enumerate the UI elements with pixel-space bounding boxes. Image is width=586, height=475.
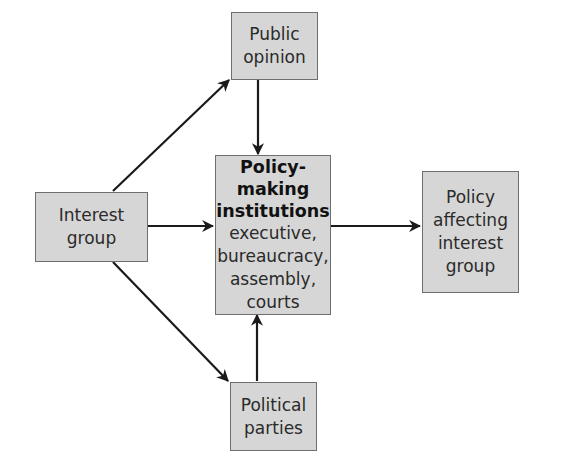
arrow-interest-to-public-opinion — [113, 80, 229, 191]
node-political-parties: Political parties — [230, 382, 317, 451]
node-label-line: bureaucracy, — [217, 245, 328, 268]
node-public-opinion: Public opinion — [231, 12, 318, 80]
arrow-interest-to-parties — [113, 262, 228, 381]
node-label-line: executive, — [229, 222, 317, 245]
node-policy-making-institutions: Policy-making institutions executive, bu… — [215, 155, 331, 315]
node-label-line: courts — [246, 291, 299, 314]
node-policy-affecting-interest-group: Policy affecting interest group — [422, 171, 519, 293]
node-interest-group: Interest group — [35, 192, 148, 262]
node-label-line: assembly, — [230, 268, 316, 291]
node-label-line: interest — [438, 232, 503, 255]
node-label-line: group — [67, 227, 116, 250]
node-label-line: Public — [249, 23, 299, 46]
node-label-line: Political — [241, 394, 306, 417]
node-label-line: parties — [244, 417, 303, 440]
node-label-line: group — [446, 255, 495, 278]
node-label-line: Interest — [59, 204, 125, 227]
node-title-line: institutions — [216, 200, 329, 222]
node-title-line: Policy-making — [216, 156, 330, 200]
node-label-line: Policy — [446, 186, 495, 209]
node-label-line: opinion — [243, 46, 306, 69]
node-label-line: affecting — [433, 209, 508, 232]
